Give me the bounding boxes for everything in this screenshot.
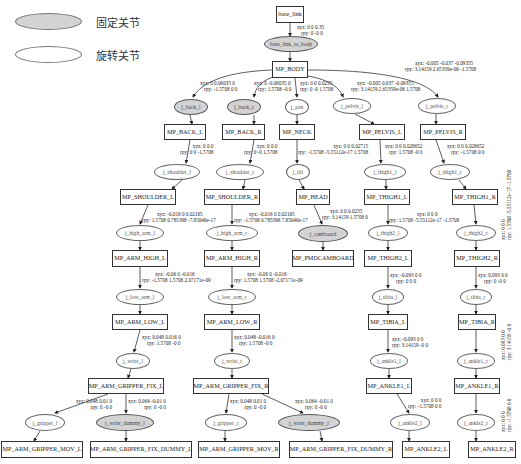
joint-j-low-arm-l[interactable]: j_low_arm_l [116, 289, 164, 305]
edge-label-shoulder-l: xyz: 0 0 0 rpy: 0 0 -1.5708 [180, 143, 213, 155]
link-mp-neck[interactable]: MP_NECK [279, 124, 315, 140]
link-mp-back-l[interactable]: MP_BACK_L [164, 124, 206, 140]
edge-label-thigh1-r: xyz: 0 0 0.028652 rpy: -1.5708 0 0 [447, 143, 484, 155]
joint-j-back-r[interactable]: j_back_r [227, 99, 261, 115]
edge-label-thigh1-l: xyz: 0 0 0.028652 rpy: 1.5708 -0 0 [385, 143, 422, 155]
edge-label-high-arm-l: xyz: -0.016 0 0.02165 rpy: 1.5708 0.7853… [142, 211, 216, 223]
edge-rpy: rpy: 0 0 -1.5708 [180, 149, 213, 155]
joint-j-thigh2-r[interactable]: j_thigh2_r [456, 225, 496, 241]
joint-j-tilt[interactable]: j_tilt [286, 164, 310, 180]
edge-rpy: rpy: 0 -0 0 [76, 404, 112, 410]
link-mp-arm-high-r[interactable]: MP_ARM_HIGH_R [204, 250, 260, 267]
edge-rpy: rpy: 1.5708 -5.55112e-17 -1.5708 [389, 217, 459, 223]
link-mp-arm-gripper-fix-r[interactable]: MP_ARM_GRIPPER_FIX_R [193, 378, 269, 394]
joint-j-ankle2-l[interactable]: j_ankle2_l [390, 414, 430, 431]
joint-j-ankle2-r[interactable]: j_ankle2_r [457, 414, 495, 431]
link-mp-thigh1-l[interactable]: MP_THIGH1_L [364, 189, 410, 205]
edge-rpy: rpy: -1.5708 1.5708 2.07171e-09 [142, 277, 211, 283]
joint-j-pelvis-l[interactable]: j_pelvis_l [333, 98, 371, 114]
link-mp-ankle1-r[interactable]: MP_ANKLE1_R [454, 378, 500, 394]
edge-label-tibia-r: xyz: 0.093 0 0 rpy: 0 -0 0 [478, 272, 508, 284]
edge-label-wrist-dummy-l: xyz: 0.064 -0.01 0 rpy: 0 -0 0 [128, 398, 166, 410]
edge-label-ankle1-r: xyz: 0.093 0 0 rpy: 3.14159 -0 0 [500, 324, 512, 360]
link-mp-thigh2-r[interactable]: MP_THIGH2_R [454, 250, 500, 267]
edge-rpy: rpy: 3.14159 -0 0 [506, 324, 512, 360]
edge-label-base-to-body: xyz: 0 0 0.35 rpy: 0 -0 0 [297, 24, 324, 36]
joint-j-thigh1-l[interactable]: j_thigh1_l [364, 164, 406, 180]
joint-j-gripper-r[interactable]: j_gripper_r [205, 414, 247, 431]
joint-j-tibia-l[interactable]: j_tibia_l [372, 289, 404, 305]
joint-j-back-l[interactable]: j_back_l [174, 99, 208, 115]
link-mp-arm-low-l[interactable]: MP_ARM_LOW_L [112, 314, 168, 330]
link-mp-shoulder-r[interactable]: MP_SHOULDER_R [204, 189, 260, 205]
link-mp-thigh2-l[interactable]: MP_THIGH2_L [364, 250, 412, 267]
joint-j-camboard[interactable]: j_camboard [298, 225, 348, 242]
link-mp-arm-high-l[interactable]: MP_ARM_HIGH_L [112, 250, 168, 267]
joint-j-wrist-l[interactable]: j_wrist_l [116, 353, 150, 369]
link-mp-pelvis-r[interactable]: MP_PELVIS_R [420, 124, 466, 140]
legend-fixed-swatch [15, 13, 82, 30]
edge-label-pan: xyz: 0 0 0.0235 rpy: 0 -0 1.5708 [300, 80, 333, 92]
joint-j-wrist-dummy-r[interactable]: j_wrist_dummy_r [278, 414, 340, 431]
edge-rpy: rpy: 1.5708 -0 0 [254, 86, 291, 92]
edge-label-low-arm-r: xyz: -0.06 0 -0.016 rpy: 1.5708 1.5708 -… [234, 271, 303, 283]
edge-label-ankle2-l: xyz: 0 0 0 rpy: -1.5708 0 0 [408, 397, 441, 409]
link-mp-tibia-l[interactable]: MP_TIBIA_L [368, 314, 408, 330]
joint-j-shoulder-l[interactable]: j_shoulder_l [154, 164, 200, 180]
joint-j-high-arm-l[interactable]: j_high_arm_l [116, 225, 164, 241]
edge-label-tibia-l: xyz: -0.093 0 0 rpy: 0 0 0 [390, 272, 421, 284]
joint-j-pan[interactable]: j_pan [285, 99, 309, 115]
joint-j-thigh1-r[interactable]: j_thigh1_r [430, 164, 470, 180]
edge-label-thigh2-r: xyz: 0 0 0 rpy: 1.5708 -5.55112e-17 -1.5… [500, 170, 512, 240]
edge-rpy: rpy: 3.14159 2.65359e-06 -1.5708 [405, 66, 476, 72]
edge-label-pelvis-r: xyz: -0.005 -0.037 -0.09355 rpy: 3.14159… [405, 60, 476, 72]
link-mp-ankle1-l[interactable]: MP_ANKLE1_L [366, 378, 412, 394]
edge-label-high-arm-r: xyz: -0.016 0 0.02165 rpy: -1.5708 0.785… [234, 211, 308, 223]
link-mp-arm-gripper-mov-r[interactable]: MP_ARM_GRIPPER_MOV_R [198, 441, 280, 458]
joint-j-tibia-r[interactable]: j_tibia_r [460, 289, 492, 305]
edge-label-wrist-r: xyz: 0.048 -0.016 0 rpy: 1.5708 -0 0 [234, 334, 275, 346]
urdf-tree-diagram: 固定关节 旋转关节 base_link xyz: 0 0 0.35 rpy: 0… [0, 0, 521, 464]
joint-j-shoulder-r[interactable]: j_shoulder_r [216, 164, 264, 180]
joint-j-thigh2-l[interactable]: j_thigh2_l [368, 225, 408, 241]
joint-j-wrist-r[interactable]: j_wrist_r [214, 353, 250, 369]
edge-rpy: rpy: 3.14159 1.5708 0 [322, 214, 368, 220]
link-mp-shoulder-l[interactable]: MP_SHOULDER_L [120, 189, 176, 205]
edge-label-wrist-dummy-r: xyz: 0.064 -0.01 0 rpy: 0 -0 0 [295, 398, 333, 410]
link-mp-ankle2-r[interactable]: MP_ANKLE2_R [468, 441, 516, 458]
joint-j-wrist-dummy-l[interactable]: j_wrist_dummy_l [96, 414, 154, 431]
edge-label-shoulder-r: xyz: 0 0 0 rpy: 0 -0 1.5708 [244, 143, 277, 155]
link-mp-arm-gripper-fix-dummy-l[interactable]: MP_ARM_GRIPPER_FIX_DUMMY_L [90, 441, 192, 458]
edge-label-back-l: xyz: 0 0.06035 0 rpy: -1.5708 0 0 [200, 80, 237, 92]
joint-j-ankle1-l[interactable]: j_ankle1_l [370, 353, 408, 369]
joint-j-low-arm-r[interactable]: j_low_arm_r [208, 289, 256, 305]
joint-j-pelvis-r[interactable]: j_pelvis_r [418, 98, 456, 114]
link-mp-arm-gripper-fix-dummy-r[interactable]: MP_ARM_GRIPPER_FIX_DUMMY_R [289, 441, 393, 458]
link-mp-pelvis-l[interactable]: MP_PELVIS_L [359, 124, 405, 140]
link-base-link[interactable]: base_link [276, 6, 304, 23]
link-mp-arm-gripper-fix-l[interactable]: MP_ARM_GRIPPER_FIX_L [88, 378, 164, 394]
edge-label-tilt: xyz: 0 0 0.02715 rpy: -1.5708 -5.55112e-… [298, 143, 368, 155]
link-mp-arm-gripper-mov-l[interactable]: MP_ARM_GRIPPER_MOV_L [1, 441, 83, 458]
link-mp-ankle2-l[interactable]: MP_ANKLE2_L [402, 441, 450, 458]
joint-j-gripper-l[interactable]: j_gripper_l [25, 414, 65, 431]
edge-rpy: rpy: -1.5708 0 0 [447, 149, 484, 155]
edge-rpy: rpy: 0 -0 1.5708 [300, 86, 333, 92]
edge-label-gripper-l: xyz: 0.048 0.01 0 rpy: 0 -0 0 [76, 398, 112, 410]
joint-j-high-arm-r[interactable]: j_high_arm_r [206, 225, 258, 241]
link-mp-pmdcamboard[interactable]: MP_PMDCAMBOARD [292, 250, 354, 267]
edge-label-camboard: xyz: 0 0 0.0235 rpy: 3.14159 1.5708 0 [322, 208, 368, 220]
link-mp-thigh1-r[interactable]: MP_THIGH1_R [452, 189, 498, 205]
link-mp-tibia-r[interactable]: MP_TIBIA_R [458, 314, 496, 330]
legend-revolute-swatch [15, 46, 82, 63]
joint-j-ankle1-r[interactable]: j_ankle1_r [457, 353, 495, 369]
legend-revolute-label: 旋转关节 [96, 47, 140, 63]
link-mp-arm-low-r[interactable]: MP_ARM_LOW_R [204, 314, 260, 330]
edge-label-back-r: xyz: 0 -0.06035 0 rpy: 1.5708 -0 0 [254, 80, 291, 92]
link-mp-body[interactable]: MP_BODY [272, 61, 308, 78]
edge-rpy: rpy: 1.5708 -5.55112e-17 -1.5708 [506, 170, 512, 240]
link-mp-back-r[interactable]: MP_BACK_R [222, 124, 265, 140]
joint-base-link-to-body[interactable]: base_link_to_body [264, 36, 318, 52]
link-mp-head[interactable]: MP_HEAD [296, 189, 330, 205]
edge-rpy: rpy: -1.5708 0 0 [506, 399, 512, 432]
